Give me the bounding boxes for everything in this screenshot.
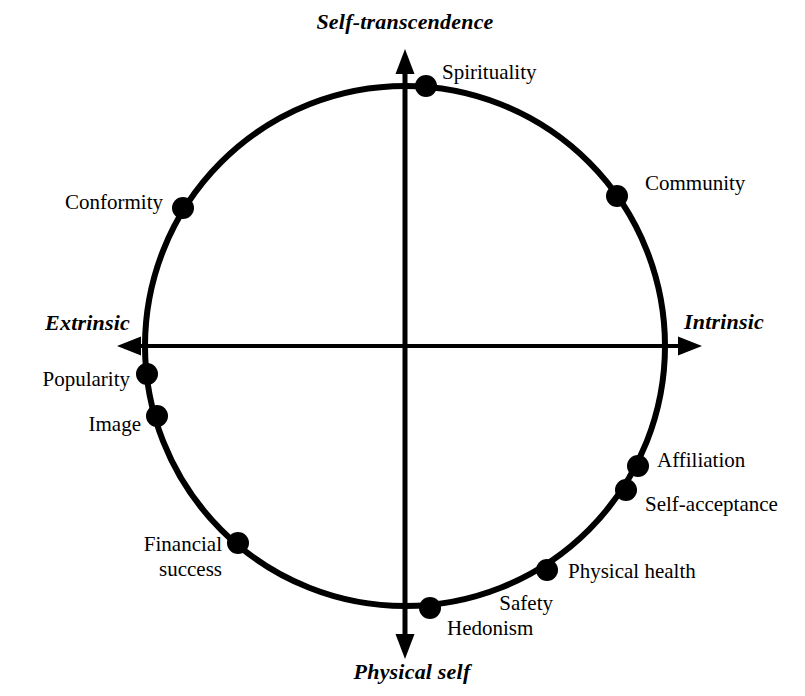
point-label-financial-success: Financial success [144, 532, 222, 582]
data-point-marker [419, 597, 441, 619]
data-point-marker [536, 559, 558, 581]
point-label-conformity: Conformity [65, 191, 163, 214]
data-point-marker [146, 405, 168, 427]
point-label-safety: Safety [499, 592, 553, 615]
circumplex-diagram: Self-transcendence Physical self Extrins… [0, 0, 805, 696]
axis-label-bottom: Physical self [354, 660, 471, 684]
point-label-affiliation: Affiliation [657, 449, 745, 472]
axis-arrow-up-icon [396, 49, 415, 74]
point-label-self-acceptance: Self-acceptance [645, 493, 778, 516]
data-point-marker [615, 479, 637, 501]
point-label-hedonism: Hedonism [447, 617, 533, 640]
axis-arrow-down-icon [396, 634, 415, 659]
data-point-marker [415, 75, 437, 97]
circumplex-graphic [0, 0, 805, 696]
axis-arrow-left-icon [117, 337, 141, 356]
point-label-physical-health: Physical health [568, 560, 696, 583]
point-label-popularity: Popularity [43, 368, 131, 391]
data-point-marker [627, 455, 649, 477]
point-label-spirituality: Spirituality [442, 61, 537, 84]
axis-label-top: Self-transcendence [316, 10, 493, 34]
data-point-marker [606, 185, 628, 207]
axis-label-left: Extrinsic [45, 311, 130, 335]
axis-label-right: Intrinsic [684, 310, 764, 334]
axis-arrow-right-icon [678, 337, 702, 356]
data-point-marker [136, 363, 158, 385]
data-point-marker [172, 197, 194, 219]
point-label-community: Community [645, 172, 745, 195]
point-label-image: Image [89, 413, 141, 436]
data-point-marker [227, 532, 249, 554]
